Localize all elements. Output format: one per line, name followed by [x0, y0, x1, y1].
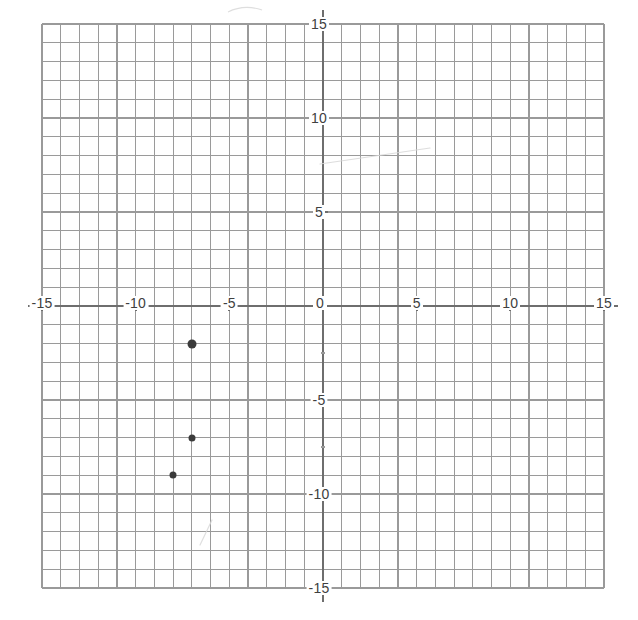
y-tick-label-neg5: -5	[311, 393, 328, 407]
y-tick-label-neg10: -10	[307, 487, 332, 501]
y-tick-label-neg15: -15	[307, 581, 332, 595]
scan-artifacts	[200, 7, 430, 545]
x-tick-label-neg10: -10	[123, 296, 148, 310]
data-point-3[interactable]	[170, 472, 177, 479]
coordinate-plane-graph: -15-10-505101515105-5-10-15	[0, 0, 638, 620]
x-tick-label-10: 10	[500, 296, 520, 310]
y-tick-label-15: 15	[309, 17, 329, 31]
data-point-1[interactable]	[187, 339, 196, 348]
x-tick-label-15: 15	[594, 296, 614, 310]
scan-artifact-mark	[228, 7, 262, 12]
data-point-2[interactable]	[188, 434, 195, 441]
x-tick-label-5: 5	[411, 296, 423, 310]
x-tick-label-neg15: -15	[30, 296, 55, 310]
x-tick-label-neg5: -5	[221, 296, 238, 310]
x-tick-label-origin: 0	[313, 296, 327, 310]
y-tick-label-5: 5	[313, 205, 325, 219]
y-tick-label-10: 10	[309, 111, 329, 125]
